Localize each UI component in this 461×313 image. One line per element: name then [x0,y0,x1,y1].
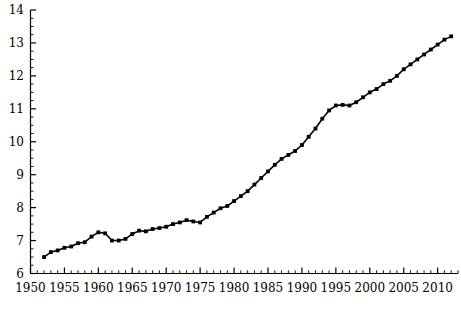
data-point-marker [83,240,87,244]
data-point-marker [219,206,223,210]
data-point-marker [246,189,250,193]
data-point-marker [90,235,94,239]
data-point-marker [361,95,365,99]
data-markers [42,34,453,258]
data-point-marker [381,82,385,86]
data-point-marker [266,169,270,173]
data-point-marker [178,221,182,225]
data-point-marker [443,38,447,42]
data-point-marker [300,143,304,147]
data-point-marker [69,245,73,249]
y-axis-ticks [31,10,37,274]
data-point-marker [225,204,229,208]
data-point-marker [96,230,100,234]
data-point-marker [395,74,399,78]
x-axis-ticks [31,268,459,274]
data-point-marker [449,34,453,38]
data-point-marker [124,237,128,241]
data-point-marker [409,62,413,66]
y-tick-label: 9 [0,169,24,181]
data-point-marker [117,239,121,243]
data-point-marker [415,58,419,62]
x-tick-label: 2010 [418,282,458,294]
data-point-marker [334,104,338,108]
data-point-marker [42,255,46,259]
data-point-marker [327,109,331,113]
data-point-marker [273,163,277,167]
data-point-marker [375,87,379,91]
y-tick-label: 10 [0,136,24,148]
data-point-marker [402,67,406,71]
data-point-marker [320,117,324,121]
y-tick-label: 7 [0,235,24,247]
data-point-marker [191,220,195,224]
data-point-marker [314,127,318,131]
data-point-marker [293,149,297,153]
data-point-marker [232,199,236,203]
line-chart: 67891011121314 1950195519601965197019751… [0,0,461,313]
y-tick-label: 11 [0,103,24,115]
y-tick-label: 6 [0,268,24,280]
y-tick-label: 8 [0,202,24,214]
data-point-marker [205,215,209,219]
data-point-marker [56,249,60,253]
y-tick-label: 14 [0,4,24,16]
data-point-marker [198,221,202,225]
data-point-marker [144,229,148,233]
data-point-marker [253,183,257,187]
data-point-marker [212,211,216,215]
data-point-marker [171,222,175,226]
data-point-marker [429,48,433,52]
data-point-marker [130,232,134,236]
data-point-marker [348,104,352,108]
data-line [44,36,451,257]
data-point-marker [164,225,168,229]
data-point-marker [103,231,107,235]
data-point-marker [76,241,80,245]
y-tick-label: 12 [0,70,24,82]
data-point-marker [307,135,311,139]
data-point-marker [63,246,67,250]
data-point-marker [341,103,345,107]
plot-area [0,0,461,313]
data-point-marker [368,90,372,94]
data-point-marker [280,157,284,161]
data-point-marker [158,226,162,230]
data-point-marker [110,239,114,243]
data-point-marker [422,53,426,57]
data-point-marker [388,79,392,83]
y-tick-label: 13 [0,37,24,49]
data-point-marker [259,176,263,180]
data-point-marker [436,43,440,47]
data-point-marker [151,227,155,231]
data-point-marker [137,229,141,233]
data-point-marker [49,250,53,254]
data-point-marker [239,194,243,198]
data-point-marker [354,100,358,104]
data-point-marker [286,153,290,157]
data-point-marker [185,218,189,222]
